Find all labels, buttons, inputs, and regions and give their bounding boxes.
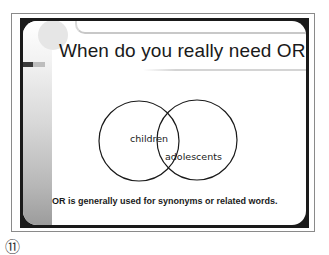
slide-caption: OR is generally used for synonyms or rel… — [52, 196, 278, 206]
venn-diagram — [23, 21, 306, 225]
slide-content: When do you really need OR? children ado… — [23, 21, 306, 225]
slide-number: ⑪ — [5, 235, 20, 255]
venn-label-children: children — [130, 133, 168, 144]
venn-circle-right — [157, 100, 237, 180]
slide: When do you really need OR? children ado… — [20, 18, 309, 228]
venn-label-adolescents: adolescents — [165, 151, 222, 162]
